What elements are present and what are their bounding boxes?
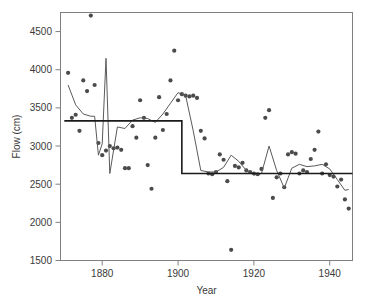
data-point bbox=[263, 116, 267, 120]
nile-flow-scatter-chart: 1500200025003000350040004500188019001920… bbox=[0, 0, 367, 300]
data-point bbox=[225, 179, 229, 183]
y-tick-label: 2000 bbox=[30, 217, 53, 228]
y-tick-label: 2500 bbox=[30, 179, 53, 190]
data-point bbox=[218, 152, 222, 156]
data-point bbox=[104, 149, 108, 153]
data-point bbox=[74, 113, 78, 117]
data-point bbox=[267, 108, 271, 112]
data-point bbox=[108, 144, 112, 148]
axis-ticks-group bbox=[56, 32, 330, 266]
data-point bbox=[119, 148, 123, 152]
data-point bbox=[343, 197, 347, 201]
data-point bbox=[165, 112, 169, 116]
data-point bbox=[134, 136, 138, 140]
data-point bbox=[89, 13, 93, 17]
y-tick-label: 4000 bbox=[30, 64, 53, 75]
data-point bbox=[157, 95, 161, 99]
data-point bbox=[233, 164, 237, 168]
x-tick-label: 1900 bbox=[167, 268, 190, 279]
data-point bbox=[93, 83, 97, 87]
data-point bbox=[138, 98, 142, 102]
y-tick-label: 4500 bbox=[30, 26, 53, 37]
y-tick-label: 3000 bbox=[30, 141, 53, 152]
data-point bbox=[70, 116, 74, 120]
x-tick-label: 1940 bbox=[319, 268, 342, 279]
data-point bbox=[316, 129, 320, 133]
data-point bbox=[66, 71, 70, 75]
step-fit-line bbox=[64, 121, 352, 174]
data-point bbox=[221, 158, 225, 162]
chart-figure: 1500200025003000350040004500188019001920… bbox=[0, 0, 367, 300]
x-tick-label: 1920 bbox=[243, 268, 266, 279]
data-point bbox=[149, 187, 153, 191]
data-point bbox=[161, 128, 165, 132]
data-point bbox=[294, 152, 298, 156]
data-point bbox=[146, 163, 150, 167]
data-point bbox=[199, 129, 203, 133]
data-point bbox=[77, 129, 81, 133]
data-point bbox=[130, 124, 134, 128]
data-point bbox=[115, 145, 119, 149]
data-point bbox=[286, 152, 290, 156]
data-point bbox=[237, 165, 241, 169]
x-tick-label: 1880 bbox=[91, 268, 114, 279]
plot-frame bbox=[61, 13, 353, 261]
data-point bbox=[335, 184, 339, 188]
data-point bbox=[153, 136, 157, 140]
data-point bbox=[168, 78, 172, 82]
y-tick-label: 1500 bbox=[30, 255, 53, 266]
data-point bbox=[290, 150, 294, 154]
data-point bbox=[81, 78, 85, 82]
data-point bbox=[187, 94, 191, 98]
data-point bbox=[229, 248, 233, 252]
data-point bbox=[176, 98, 180, 102]
x-axis-title: Year bbox=[196, 285, 217, 296]
data-point bbox=[123, 166, 127, 170]
data-point bbox=[271, 196, 275, 200]
data-point bbox=[100, 153, 104, 157]
y-tick-label: 3500 bbox=[30, 102, 53, 113]
data-point bbox=[301, 168, 305, 172]
data-point bbox=[195, 96, 199, 100]
data-point bbox=[203, 136, 207, 140]
data-point bbox=[191, 94, 195, 98]
data-point bbox=[312, 148, 316, 152]
data-point bbox=[347, 207, 351, 211]
data-point bbox=[85, 89, 89, 93]
data-point bbox=[127, 166, 131, 170]
y-axis-title: Flow (cm) bbox=[11, 115, 22, 159]
data-point bbox=[309, 157, 313, 161]
data-point bbox=[339, 178, 343, 182]
data-point bbox=[275, 175, 279, 179]
data-point bbox=[172, 49, 176, 53]
